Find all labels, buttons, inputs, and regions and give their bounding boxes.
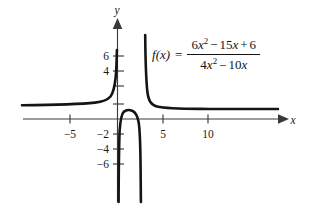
numerator-operator-2: + xyxy=(240,37,247,52)
denominator-term2-coefficient: 10 xyxy=(228,58,241,73)
equation-fraction: 6x2−15x+6 4x2−10x xyxy=(187,36,260,74)
function-equation: f(x) = 6x2−15x+6 4x2−10x xyxy=(152,36,260,74)
denominator-term1-exponent: 2 xyxy=(213,56,217,66)
function-graph-figure: −5 5 10 6 4 −2 −4 −6 x y f(x) = 6x2−15x+… xyxy=(0,0,312,215)
x-axis-arrowhead xyxy=(278,114,289,124)
equation-left-hand-side: f(x) xyxy=(152,47,170,63)
y-axis-label: y xyxy=(113,4,120,17)
denominator-term2-variable: x xyxy=(241,58,247,73)
equation-close-paren: ) xyxy=(166,47,170,62)
x-tick-label-neg5: −5 xyxy=(64,128,76,140)
x-tick-label-10: 10 xyxy=(202,128,214,140)
y-axis-arrowhead xyxy=(113,18,123,29)
numerator-operator-1: − xyxy=(210,37,217,52)
x-axis xyxy=(23,114,289,124)
y-tick-label-6: 6 xyxy=(103,50,109,62)
y-tick-label-neg2: −2 xyxy=(97,128,109,140)
y-tick-label-4: 4 xyxy=(103,65,109,77)
denominator-operator-1: − xyxy=(219,58,226,73)
y-tick-label-neg4: −4 xyxy=(97,143,109,155)
numerator-term2-variable: x xyxy=(232,37,238,52)
numerator-term3: 6 xyxy=(250,37,257,52)
x-tick-label-5: 5 xyxy=(160,128,166,140)
equation-denominator: 4x2−10x xyxy=(196,55,251,73)
numerator-term2-coefficient: 15 xyxy=(219,37,232,52)
plot-canvas: −5 5 10 6 4 −2 −4 −6 x y xyxy=(0,0,312,215)
equation-numerator: 6x2−15x+6 xyxy=(187,36,260,54)
equation-equals-sign: = xyxy=(175,47,182,63)
y-tick-label-neg6: −6 xyxy=(97,158,109,170)
x-axis-label: x xyxy=(289,114,296,126)
numerator-term1-exponent: 2 xyxy=(204,36,208,46)
curve-middle-branch xyxy=(119,110,141,202)
